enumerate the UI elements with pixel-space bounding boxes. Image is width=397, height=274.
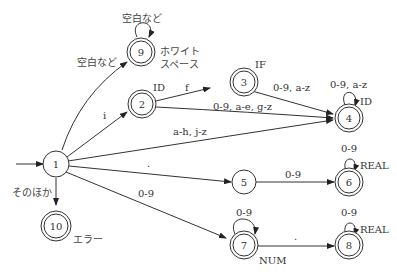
state-9: 9 (127, 38, 155, 66)
state-2: 2 (128, 90, 156, 118)
loop-9 (135, 23, 150, 37)
svg-text:8: 8 (346, 240, 352, 251)
edge-label-5-6: 0-9 (285, 169, 301, 180)
edge-label-6-6: 0-9 (341, 143, 357, 154)
edge-label-8-8: 0-9 (341, 207, 357, 218)
state-7: 7 (230, 231, 258, 259)
edge-label-1-7: 0-9 (138, 188, 154, 199)
edge-label-7-7: 0-9 (236, 207, 252, 218)
edge-label-7-8: . (294, 231, 297, 242)
svg-text:3: 3 (241, 77, 247, 88)
token-label-9-line1: ホワイト (160, 46, 200, 57)
edge-label-4-4: 0-9, a-z (330, 79, 367, 90)
edge-label-2-3: f (185, 82, 190, 93)
state-8: 8 (335, 231, 363, 259)
state-1: 1 (43, 151, 69, 177)
state-3: 3 (230, 68, 258, 96)
token-label-8: REAL (360, 224, 389, 235)
svg-text:4: 4 (346, 113, 352, 124)
edge-label-2-4: 0-9, a-e, g-z (213, 101, 272, 112)
token-label-4: ID (360, 96, 372, 107)
edge-label-1-4: a-h, j-z (173, 126, 207, 137)
edge-label-1-9: 空白など (77, 56, 117, 68)
state-diagram: 1 2 3 4 5 6 7 8 9 10 (0, 0, 397, 274)
token-label-3: IF (255, 59, 266, 70)
svg-text:6: 6 (346, 177, 352, 188)
token-label-7: NUM (259, 255, 286, 266)
token-label-2: ID (153, 82, 165, 93)
svg-text:2: 2 (139, 99, 145, 110)
state-4: 4 (335, 104, 363, 132)
token-label-6: REAL (360, 160, 389, 171)
svg-text:1: 1 (53, 159, 59, 170)
state-10: 10 (41, 211, 71, 241)
svg-text:9: 9 (138, 47, 144, 58)
state-6: 6 (335, 168, 363, 196)
edge-label-9-9: 空白など (122, 12, 162, 24)
edge-1-7 (66, 172, 226, 238)
token-label-10: エラー (73, 234, 103, 245)
edge-label-1-2: i (103, 110, 106, 121)
edge-label-1-5: . (147, 158, 150, 169)
token-label-9-line2: スペース (160, 59, 199, 70)
edge-label-3-4: 0-9, a-z (273, 82, 310, 93)
edge-label-1-10: そのほか (12, 187, 52, 198)
svg-text:7: 7 (241, 240, 247, 251)
svg-text:10: 10 (50, 221, 63, 232)
state-5: 5 (232, 170, 256, 194)
svg-text:5: 5 (241, 177, 247, 188)
